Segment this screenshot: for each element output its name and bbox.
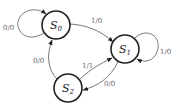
- state-diagram: S0 S1 S2 0/0 1/0 1/0 0/0 1/1 0/0: [0, 0, 178, 106]
- edge-s2-to-s0: [49, 40, 57, 79]
- label-s2-to-s0: 0/0: [33, 57, 44, 65]
- label-s1-self-loop: 1/0: [160, 48, 171, 56]
- state-s0: S0: [42, 11, 70, 39]
- label-s1-to-s2: 0/0: [104, 80, 115, 88]
- state-s2: S2: [54, 74, 82, 102]
- label-s2-to-s1: 1/1: [82, 62, 93, 70]
- state-s1: S1: [111, 35, 139, 63]
- edge-s0-to-s1: [70, 24, 113, 42]
- label-s0-self-loop: 0/0: [3, 24, 14, 32]
- label-s0-to-s1: 1/0: [91, 17, 102, 25]
